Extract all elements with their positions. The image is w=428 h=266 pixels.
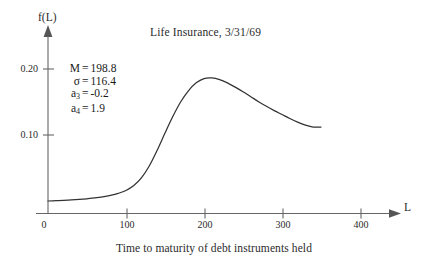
x-tick-label-100: 100 — [110, 220, 144, 230]
y-tick-label-0.10: 0.10 — [4, 130, 38, 140]
stat-row: a3=-0.2 — [64, 87, 116, 102]
stat-value: -0.2 — [91, 87, 109, 99]
y-axis-arrowhead — [44, 25, 53, 37]
x-tick-label-300: 300 — [266, 220, 300, 230]
stat-row: a4=1.9 — [64, 102, 116, 117]
x-axis-label: L — [404, 202, 411, 214]
stat-equals-sign: = — [80, 62, 91, 74]
stat-value: 1.9 — [91, 102, 105, 114]
y-axis-label: f(L) — [38, 12, 57, 24]
x-tick-label-200: 200 — [188, 220, 222, 230]
stat-value: 198.8 — [91, 62, 117, 74]
stat-row: M=198.8 — [64, 62, 116, 75]
stat-symbol: a4 — [64, 102, 80, 117]
stat-row: σ=116.4 — [64, 75, 116, 88]
x-axis-arrowhead — [389, 209, 401, 218]
y-tick-label-0.20: 0.20 — [4, 64, 38, 74]
chart-title: Life Insurance, 3/31/69 — [150, 27, 261, 39]
stat-equals-sign: = — [80, 87, 91, 99]
stat-symbol: a3 — [64, 87, 80, 102]
x-tick-label-400: 400 — [344, 220, 378, 230]
x-tick-label-0: 0 — [27, 220, 61, 230]
stat-value: 116.4 — [91, 75, 116, 87]
stat-symbol: M — [64, 62, 80, 75]
stat-equals-sign: = — [80, 102, 91, 114]
stat-symbol-subscript: 3 — [76, 92, 80, 101]
chart-figure: f(L) L Life Insurance, 3/31/69 0.20 0.10… — [0, 0, 428, 266]
statistics-annotation: M=198.8σ=116.4a3=-0.2a4=1.9 — [64, 62, 116, 116]
stat-symbol: σ — [64, 75, 80, 88]
stat-equals-sign: = — [80, 75, 91, 87]
stat-symbol-subscript: 4 — [76, 107, 80, 116]
chart-caption: Time to maturity of debt instruments hel… — [116, 243, 312, 255]
